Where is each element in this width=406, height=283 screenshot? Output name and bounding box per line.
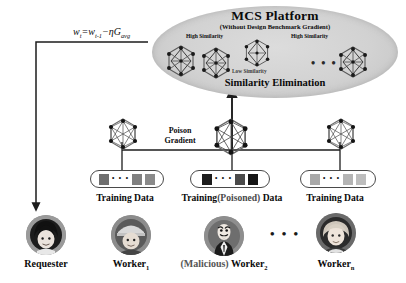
platform-subtitle: (Without Design Benchmark Gradient) bbox=[152, 23, 398, 30]
worker-n-label-text: Worker bbox=[318, 258, 351, 269]
worker-2-index: 2 bbox=[264, 264, 267, 271]
diagram-canvas: MCS Platform (Without Design Benchmark G… bbox=[0, 0, 406, 283]
data-chip-poisoned bbox=[248, 174, 258, 185]
training-data-label-1: Training Data bbox=[85, 192, 165, 203]
data-chip bbox=[343, 174, 353, 185]
formula-sub-avg: avg bbox=[121, 32, 130, 39]
worker-n-avatar bbox=[316, 213, 356, 253]
poison-gradient-line2: Gradient bbox=[157, 136, 203, 146]
similarity-elimination-label: Similarity Elimination bbox=[152, 77, 398, 88]
platform-title: MCS Platform bbox=[152, 8, 398, 24]
data-chip-poisoned bbox=[235, 174, 245, 185]
capsule-ellipsis: • • • bbox=[112, 176, 129, 182]
malicious-prefix: (Malicious) bbox=[180, 258, 228, 269]
workers-ellipsis: • • • bbox=[270, 226, 300, 242]
td2-poisoned-word: (Poisoned) bbox=[217, 192, 260, 203]
requester-label: Requester bbox=[5, 258, 87, 269]
td2-pre: Training bbox=[182, 192, 218, 203]
worker-2-label-text: Worker bbox=[229, 258, 265, 269]
data-chip-poisoned bbox=[202, 174, 212, 185]
worker-1-label-text: Worker bbox=[113, 258, 146, 269]
data-chip bbox=[99, 174, 109, 185]
training-data-capsule-1: • • • bbox=[90, 170, 164, 188]
high-similarity-label-right: High Similarity bbox=[291, 33, 328, 39]
malicious-worker-avatar bbox=[204, 216, 244, 256]
training-data-capsule-3: • • • bbox=[300, 170, 376, 188]
platform-ellipsis: • • • bbox=[311, 56, 337, 71]
formula-eta-g: −ηG bbox=[102, 26, 121, 37]
capsule-ellipsis: • • • bbox=[323, 176, 340, 182]
requester-label-text: Requester bbox=[24, 258, 67, 269]
formula-sub-t1: t-1 bbox=[95, 32, 102, 39]
low-similarity-label: Low Similarity bbox=[232, 68, 267, 74]
training-data-label-2: Training(Poisoned) Data bbox=[178, 192, 286, 203]
capsule-ellipsis: • • • bbox=[215, 176, 232, 182]
data-chip bbox=[310, 174, 320, 185]
td2-post: Data bbox=[260, 192, 282, 203]
weight-update-formula: wt=wt-1−ηGavg bbox=[73, 26, 130, 39]
high-similarity-label-left: High Similarity bbox=[186, 33, 223, 39]
data-chip bbox=[132, 174, 142, 185]
worker-1-avatar bbox=[111, 215, 151, 255]
training-data-capsule-2-poisoned: • • • bbox=[190, 170, 270, 188]
requester-avatar bbox=[26, 215, 66, 255]
platform-graph-2 bbox=[199, 46, 233, 80]
platform-graph-outlier bbox=[242, 38, 272, 68]
poison-gradient-label: Poison Gradient bbox=[157, 126, 203, 146]
worker-n-index: n bbox=[351, 264, 355, 271]
worker-n-label: Workern bbox=[295, 258, 377, 271]
poison-gradient-line1: Poison bbox=[157, 126, 203, 136]
training-data-label-3: Training Data bbox=[295, 192, 375, 203]
formula-eq: =w bbox=[81, 26, 94, 37]
worker-1-index: 1 bbox=[146, 264, 149, 271]
platform-graph-last bbox=[336, 45, 370, 79]
client-graph-1 bbox=[104, 117, 142, 151]
client-graph-3 bbox=[322, 117, 360, 151]
data-chip bbox=[356, 174, 366, 185]
client-graph-2-poison bbox=[208, 117, 254, 157]
platform-graph-1 bbox=[164, 44, 198, 78]
formula-w: w bbox=[73, 26, 80, 37]
data-chip bbox=[145, 174, 155, 185]
malicious-worker-label: (Malicious) Worker2 bbox=[155, 258, 293, 271]
